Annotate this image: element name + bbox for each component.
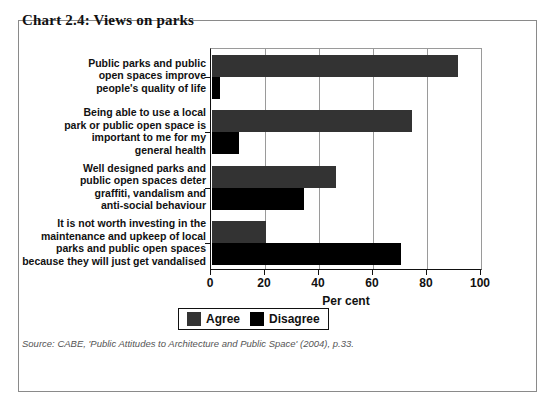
- x-axis-tick-label: 100: [470, 276, 490, 290]
- bar-agree-group-2: [212, 110, 412, 132]
- bar-disagree-group-2: [212, 132, 239, 154]
- category-label-line: Being able to use a local: [6, 106, 206, 119]
- category-label-line: people's quality of life: [6, 82, 206, 95]
- bar-disagree-group-3: [212, 188, 304, 210]
- category-label-line: park or public open space is: [6, 119, 206, 132]
- legend-entry-disagree[interactable]: Disagree: [250, 312, 320, 326]
- category-label-line: public open spaces deter: [6, 174, 206, 187]
- category-label-line: graffiti, vandalism and: [6, 187, 206, 200]
- x-axis-tick-label: 60: [365, 276, 378, 290]
- y-axis-tick: [205, 77, 211, 78]
- x-axis-tick: [318, 270, 319, 275]
- category-label-line: anti-social behaviour: [6, 199, 206, 212]
- chart-legend: AgreeDisagree: [178, 308, 329, 330]
- legend-swatch-agree: [187, 312, 201, 326]
- bar-agree-group-3: [212, 166, 336, 188]
- x-axis-tick: [210, 270, 211, 275]
- x-axis-tick: [372, 270, 373, 275]
- x-axis-tick: [264, 270, 265, 275]
- source-note: Source: CABE, 'Public Attitudes to Archi…: [22, 338, 354, 349]
- bar-disagree-group-1: [212, 77, 220, 99]
- bar-disagree-group-4: [212, 243, 401, 265]
- category-label-line: parks and public open spaces: [6, 242, 206, 255]
- x-axis-tick-label: 20: [257, 276, 270, 290]
- gridline: [481, 49, 482, 269]
- category-label-line: It is not worth investing in the: [6, 217, 206, 230]
- category-axis-labels: Public parks and publicopen spaces impro…: [4, 48, 206, 270]
- x-axis-tick-label: 0: [207, 276, 214, 290]
- category-label-line: Well designed parks and: [6, 162, 206, 175]
- plot-area: [210, 48, 482, 270]
- category-label-line: general health: [6, 144, 206, 157]
- category-label-line: because they will just get vandalised: [6, 255, 206, 268]
- category-label-line: open spaces improve: [6, 69, 206, 82]
- category-label-3: Well designed parks andpublic open space…: [6, 162, 206, 212]
- y-axis-tick: [205, 188, 211, 189]
- gridline: [373, 49, 374, 269]
- category-label-1: Public parks and publicopen spaces impro…: [6, 57, 206, 95]
- legend-swatch-disagree: [250, 312, 264, 326]
- legend-label-agree: Agree: [206, 312, 240, 326]
- category-label-line: important to me for my: [6, 131, 206, 144]
- category-label-4: It is not worth investing in themaintena…: [6, 217, 206, 267]
- y-axis-tick: [205, 243, 211, 244]
- category-label-line: maintenance and upkeep of local: [6, 230, 206, 243]
- gridline: [427, 49, 428, 269]
- category-label-line: Public parks and public: [6, 57, 206, 70]
- legend-label-disagree: Disagree: [269, 312, 320, 326]
- gridline: [319, 49, 320, 269]
- chart-title: Chart 2.4: Views on parks: [22, 12, 194, 29]
- x-axis-tick-label: 40: [311, 276, 324, 290]
- x-axis-tick: [480, 270, 481, 275]
- bar-agree-group-4: [212, 221, 266, 243]
- bar-agree-group-1: [212, 55, 458, 77]
- legend-entry-agree[interactable]: Agree: [187, 312, 240, 326]
- y-axis-tick: [205, 132, 211, 133]
- category-label-2: Being able to use a localpark or public …: [6, 106, 206, 156]
- x-axis-tick-label: 80: [419, 276, 432, 290]
- plot-region: 020406080100Per cent: [210, 48, 482, 270]
- x-axis-title: Per cent: [322, 294, 369, 308]
- x-axis-tick: [426, 270, 427, 275]
